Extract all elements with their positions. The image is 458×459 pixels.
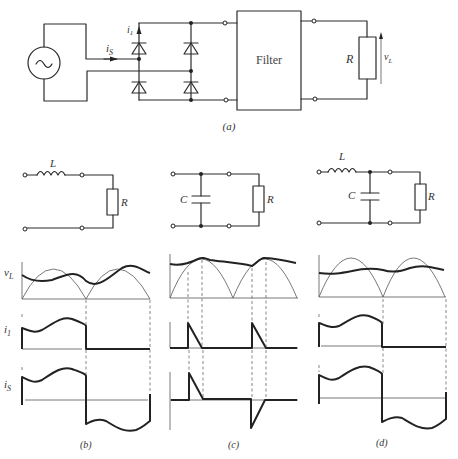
source-wire-top xyxy=(44,24,139,59)
current-arrow-icon xyxy=(110,57,118,62)
filter-b-inductive: L R xyxy=(23,157,128,231)
load-resistor xyxy=(359,37,376,79)
svg-text:(c): (c) xyxy=(228,439,240,451)
svg-text:vL: vL xyxy=(4,266,14,281)
svg-text:R: R xyxy=(120,196,128,208)
filter-d-lc: L C R xyxy=(317,150,435,225)
label-is: iS xyxy=(106,42,113,57)
voltage-arrow-icon xyxy=(379,32,383,39)
resistor-icon xyxy=(253,186,264,212)
waveforms-c: (c) xyxy=(170,254,298,451)
filter-label: Filter xyxy=(256,53,282,67)
svg-text:C: C xyxy=(180,193,188,205)
svg-text:(b): (b) xyxy=(80,439,92,451)
svg-text:(d): (d) xyxy=(376,437,388,449)
ac-source-icon xyxy=(28,47,60,79)
rectifier-filter-diagram: iS i1 Filter xyxy=(0,0,458,459)
resistor-icon xyxy=(415,184,426,210)
svg-text:R: R xyxy=(427,190,435,202)
capacitor-icon xyxy=(192,196,210,203)
resistor-icon xyxy=(107,189,118,215)
panel-a-circuit: iS i1 Filter xyxy=(28,11,392,133)
svg-text:i1: i1 xyxy=(4,323,11,338)
source-wire-bottom xyxy=(44,71,191,101)
svg-text:L: L xyxy=(49,157,56,169)
waveforms-b: vL i1 iS (b) xyxy=(4,262,150,451)
label-i1: i1 xyxy=(127,24,133,37)
label-vl: vL xyxy=(384,51,392,65)
inductor-icon xyxy=(328,169,356,173)
filter-c-capacitive: C R xyxy=(171,172,274,228)
current-arrow-icon xyxy=(137,26,142,34)
svg-text:L: L xyxy=(338,150,345,162)
caption-a: (a) xyxy=(223,120,236,133)
svg-text:R: R xyxy=(266,193,274,205)
svg-text:iS: iS xyxy=(4,378,11,393)
svg-text:C: C xyxy=(348,189,356,201)
inductor-icon xyxy=(37,172,65,176)
capacitor-icon xyxy=(361,193,379,200)
waveforms-d: (d) xyxy=(319,255,446,449)
label-r: R xyxy=(345,52,354,66)
